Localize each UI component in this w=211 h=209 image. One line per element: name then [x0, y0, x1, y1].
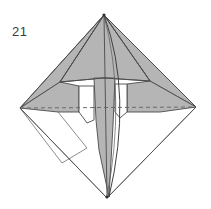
right-white-notch: [115, 84, 127, 118]
bottom-vertex-dot: [105, 195, 108, 198]
apex-vertex-dot: [102, 13, 105, 16]
origami-diagram-svg: [0, 0, 211, 209]
step-number-label: 21: [12, 25, 27, 38]
origami-figure: 21: [0, 0, 211, 209]
